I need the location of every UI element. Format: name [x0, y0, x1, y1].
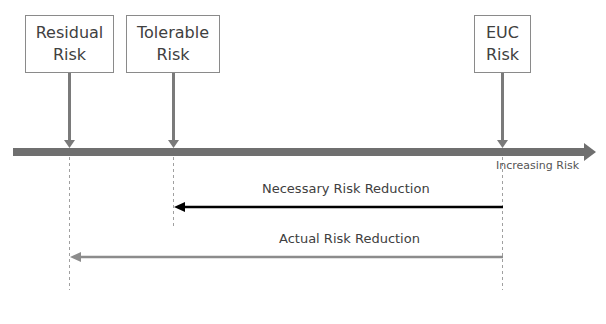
box-pointers — [64, 72, 508, 148]
residual-risk-line2: Risk — [53, 44, 86, 66]
euc-risk-line1: EUC — [486, 22, 519, 44]
tolerable-risk-line1: Tolerable — [137, 22, 209, 44]
axis-arrowhead-icon — [584, 143, 596, 161]
tolerable-risk-box: Tolerable Risk — [126, 15, 220, 73]
necessary-risk-reduction-arrow — [174, 202, 503, 212]
necessary-risk-reduction-label: Necessary Risk Reduction — [262, 181, 430, 196]
increasing-risk-label: Increasing Risk — [496, 159, 579, 172]
actual-risk-reduction-label: Actual Risk Reduction — [279, 231, 420, 246]
dashed-guides — [70, 157, 503, 290]
residual-risk-box: Residual Risk — [25, 15, 114, 73]
tolerable-risk-line2: Risk — [156, 44, 189, 66]
euc-risk-line2: Risk — [486, 44, 519, 66]
residual-risk-line1: Residual — [36, 22, 104, 44]
actual-risk-reduction-arrow — [70, 252, 503, 262]
euc-risk-box: EUC Risk — [474, 15, 531, 73]
